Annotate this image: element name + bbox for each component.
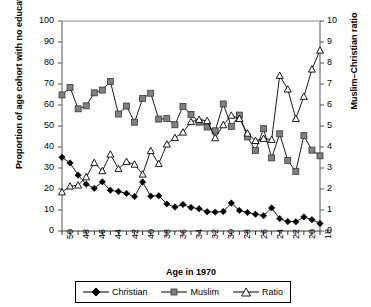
y-tick-label-left: 80	[28, 58, 54, 67]
y-tick-label-right: 10	[327, 16, 347, 25]
data-point-christian	[252, 211, 258, 217]
x-tick-label: 26	[260, 229, 269, 239]
series-line-christian	[62, 157, 320, 223]
x-tick-label: 20	[308, 229, 317, 239]
data-point-christian	[115, 188, 121, 194]
data-point-muslim	[253, 148, 259, 154]
data-point-christian	[317, 220, 323, 226]
y-tick-label-left: 20	[28, 184, 54, 193]
data-point-muslim	[301, 133, 307, 139]
data-point-muslim	[124, 103, 130, 109]
y-axis-right-label: Muslim–Christian ratio	[349, 0, 359, 141]
x-tick-label: 24	[276, 229, 285, 239]
x-tick-label: 32	[211, 229, 220, 239]
x-tick-label: 40	[147, 229, 156, 239]
data-point-christian	[212, 209, 218, 215]
data-point-ratio	[308, 66, 315, 72]
data-point-ratio	[123, 158, 130, 164]
y-tick-label-right: 4	[327, 142, 347, 151]
data-point-muslim	[83, 103, 89, 109]
data-point-muslim	[75, 106, 81, 112]
data-point-christian	[196, 206, 202, 212]
data-point-christian	[123, 190, 129, 196]
y-tick-label-right: 2	[327, 184, 347, 193]
data-point-muslim	[180, 103, 186, 109]
y-tick-label-left: 10	[28, 205, 54, 214]
y-tick-label-left: 0	[28, 226, 54, 235]
data-point-muslim	[309, 147, 315, 153]
data-point-muslim	[293, 168, 299, 174]
chart-figure: Proportion of age cohort with no educati…	[0, 0, 371, 307]
x-tick-label: 30	[227, 229, 236, 239]
data-point-christian	[204, 208, 210, 214]
chart-legend: Christian Muslim Ratio	[75, 281, 291, 303]
data-point-christian	[293, 219, 299, 225]
legend-marker-filled-diamond	[83, 286, 109, 298]
x-tick-label: 28	[243, 229, 252, 239]
data-point-muslim	[172, 122, 178, 128]
data-point-christian	[180, 201, 186, 207]
data-point-ratio	[107, 151, 114, 157]
data-point-muslim	[59, 92, 65, 98]
legend-label-ratio: Ratio	[262, 287, 283, 297]
legend-item: Christian	[83, 286, 148, 298]
y-tick-label-right: 6	[327, 100, 347, 109]
x-tick-label: 18	[324, 229, 333, 239]
data-point-ratio	[276, 72, 283, 78]
data-point-muslim	[220, 101, 226, 107]
y-tick-label-right: 3	[327, 163, 347, 172]
series-line-muslim	[62, 81, 320, 171]
data-point-christian	[309, 216, 315, 222]
data-point-christian	[244, 209, 250, 215]
y-tick-label-right: 5	[327, 121, 347, 130]
data-point-muslim	[148, 90, 154, 96]
plot-canvas	[0, 0, 371, 307]
y-tick-label-left: 50	[28, 121, 54, 130]
data-point-christian	[147, 193, 153, 199]
y-tick-label-left: 90	[28, 37, 54, 46]
data-point-christian	[59, 154, 65, 160]
x-tick-label: 46	[98, 229, 107, 239]
y-tick-label-right: 7	[327, 79, 347, 88]
y-tick-label-left: 70	[28, 79, 54, 88]
data-point-ratio	[155, 160, 162, 166]
legend-item: Ratio	[233, 286, 283, 298]
data-point-christian	[131, 193, 137, 199]
data-point-ratio	[163, 141, 170, 147]
x-axis-label: Age in 1970	[62, 267, 320, 277]
data-point-ratio	[171, 134, 178, 140]
data-point-christian	[285, 218, 291, 224]
data-point-muslim	[261, 126, 267, 132]
legend-marker-open-triangle	[233, 286, 259, 298]
data-point-christian	[139, 179, 145, 185]
data-point-christian	[67, 160, 73, 166]
data-point-ratio	[83, 173, 90, 179]
data-point-christian	[301, 214, 307, 220]
data-point-ratio	[91, 159, 98, 165]
y-tick-label-right: 8	[327, 58, 347, 67]
x-tick-label: 48	[82, 229, 91, 239]
data-point-muslim	[91, 90, 97, 96]
y-tick-label-right: 1	[327, 205, 347, 214]
x-tick-label: 38	[163, 229, 172, 239]
legend-marker-gray-square	[161, 286, 187, 298]
y-tick-label-left: 40	[28, 142, 54, 151]
data-point-ratio	[300, 93, 307, 99]
data-point-ratio	[292, 115, 299, 121]
legend-label-christian: Christian	[112, 287, 148, 297]
x-tick-label: 36	[179, 229, 188, 239]
x-tick-label: 44	[114, 229, 123, 239]
x-tick-label: 50	[66, 229, 75, 239]
data-point-christian	[188, 204, 194, 210]
data-point-muslim	[228, 123, 234, 129]
data-point-muslim	[277, 131, 283, 137]
data-point-muslim	[269, 155, 275, 161]
legend-label-muslim: Muslim	[190, 287, 219, 297]
data-point-muslim	[140, 95, 146, 101]
data-point-christian	[172, 204, 178, 210]
x-tick-label: 42	[131, 229, 140, 239]
data-point-muslim	[164, 116, 170, 122]
data-point-muslim	[99, 87, 105, 93]
data-point-muslim	[67, 84, 73, 90]
y-tick-label-right: 9	[327, 37, 347, 46]
